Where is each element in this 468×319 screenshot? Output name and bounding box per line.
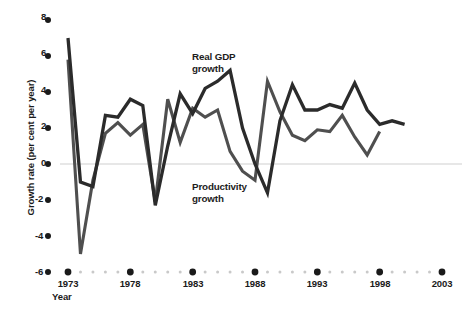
productivity-growth-line (68, 60, 380, 254)
x-tick-dot-major (65, 269, 72, 276)
real-gdp-growth-annotation: Real GDPgrowth (192, 51, 235, 74)
x-tick-dot-minor (328, 271, 331, 274)
x-tick-dot-minor (179, 271, 182, 274)
x-tick-dot-minor (428, 271, 431, 274)
y-tick-label-8: 8 (24, 11, 46, 22)
x-tick-dot-major (439, 269, 446, 276)
annotation-prod-line1: Productivity (192, 181, 247, 192)
chart-plot-area (0, 0, 468, 319)
y-tick-dot (45, 233, 51, 239)
x-tick-dot-minor (141, 271, 144, 274)
annotation-gdp-line2: growth (192, 63, 224, 74)
x-tick-dot-minor (403, 271, 406, 274)
x-tick-dot-minor (391, 271, 394, 274)
x-tick-label-1998: 1998 (359, 278, 401, 289)
y-tick-dot (45, 197, 51, 203)
x-axis-title: Year (52, 291, 72, 302)
chart-figure: 8 6 4 2 0 -2 -4 -6 1973 1978 1983 1988 1… (0, 0, 468, 319)
x-axis-major-dots (65, 269, 446, 276)
x-tick-dot-major (127, 269, 134, 276)
annotation-gdp-line1: Real GDP (192, 51, 235, 62)
x-tick-dot-minor (353, 271, 356, 274)
x-tick-dot-minor (116, 271, 119, 274)
x-tick-label-1983: 1983 (172, 278, 214, 289)
x-tick-dot-major (376, 269, 383, 276)
x-tick-dot-minor (104, 271, 107, 274)
x-tick-dot-minor (416, 271, 419, 274)
x-tick-label-1973: 1973 (47, 278, 89, 289)
x-tick-dot-minor (278, 271, 281, 274)
x-tick-dot-major (314, 269, 321, 276)
x-tick-dot-minor (241, 271, 244, 274)
x-tick-dot-minor (154, 271, 157, 274)
x-tick-dot-minor (291, 271, 294, 274)
y-axis-title: Growth rate (per cent per year) (25, 53, 36, 243)
x-tick-dot-minor (91, 271, 94, 274)
x-tick-label-1993: 1993 (296, 278, 338, 289)
x-tick-label-2003: 2003 (421, 278, 463, 289)
x-tick-dot-minor (303, 271, 306, 274)
x-tick-label-1988: 1988 (234, 278, 276, 289)
x-tick-dot-minor (366, 271, 369, 274)
x-tick-dot-minor (266, 271, 269, 274)
productivity-growth-annotation: Productivitygrowth (192, 181, 247, 204)
x-tick-dot-major (252, 269, 259, 276)
x-tick-dot-minor (229, 271, 232, 274)
y-tick-dot (45, 269, 51, 275)
x-tick-dot-minor (166, 271, 169, 274)
x-tick-dot-major (189, 269, 196, 276)
x-tick-dot-minor (216, 271, 219, 274)
x-tick-dot-minor (341, 271, 344, 274)
x-tick-label-1978: 1978 (109, 278, 151, 289)
x-tick-dot-minor (204, 271, 207, 274)
x-tick-dot-minor (79, 271, 82, 274)
annotation-prod-line2: growth (192, 193, 224, 204)
y-tick-label-neg6: -6 (21, 266, 43, 277)
